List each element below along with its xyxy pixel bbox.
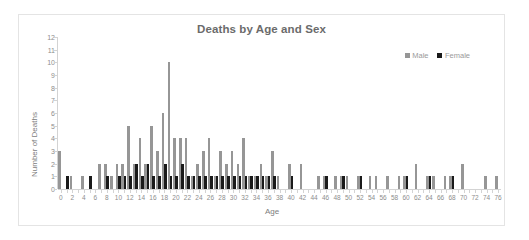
x-axis-tick-mark [372, 190, 373, 193]
x-axis-tick-label: 12 [126, 194, 133, 201]
x-axis-tick-label: 68 [448, 194, 455, 201]
bar-female-age-22[interactable] [187, 176, 190, 189]
bar-female-age-14[interactable] [141, 176, 144, 189]
bar-male-age-57[interactable] [386, 176, 389, 189]
bar-female-age-11[interactable] [124, 176, 127, 189]
bar-male-age-4[interactable] [81, 176, 84, 189]
bar-male-age-9[interactable] [110, 176, 113, 189]
bar-male-age-55[interactable] [375, 176, 378, 189]
bar-female-age-37[interactable] [273, 176, 276, 189]
x-axis-tick-label: 20 [172, 194, 179, 201]
x-axis-tick-mark [492, 190, 493, 193]
x-axis-tick-mark [95, 190, 96, 193]
bar-female-age-28[interactable] [221, 176, 224, 189]
plot-area [58, 37, 501, 189]
bar-male-age-50[interactable] [346, 176, 349, 189]
bar-female-age-16[interactable] [152, 176, 155, 189]
bar-female-age-46[interactable] [325, 176, 328, 189]
x-axis-tick-label: 24 [195, 194, 202, 201]
y-axis-tick-mark [54, 113, 57, 114]
bar-female-age-26[interactable] [210, 176, 213, 189]
x-axis-tick-mark [153, 190, 154, 193]
x-axis-tick-label: 26 [207, 194, 214, 201]
bar-male-age-45[interactable] [317, 176, 320, 189]
bar-female-age-12[interactable] [129, 176, 132, 189]
bar-male-age-74[interactable] [484, 176, 487, 189]
bar-male-age-2[interactable] [70, 176, 73, 189]
x-axis-tick-mark [210, 190, 211, 193]
bar-female-age-30[interactable] [233, 176, 236, 189]
x-axis-tick-mark [170, 190, 171, 193]
bar-female-age-68[interactable] [452, 176, 455, 189]
y-axis-tick-mark [54, 176, 57, 177]
x-axis-tick-mark [72, 190, 73, 193]
x-axis-tick-mark [366, 190, 367, 193]
x-axis-tick-mark [245, 190, 246, 193]
bar-male-age-0[interactable] [58, 151, 61, 189]
bar-female-age-23[interactable] [193, 176, 196, 189]
x-axis-tick-mark [377, 190, 378, 193]
bar-female-age-15[interactable] [147, 164, 150, 189]
bar-female-age-49[interactable] [342, 176, 345, 189]
bar-male-age-59[interactable] [398, 176, 401, 189]
x-axis-tick-mark [354, 190, 355, 193]
bar-male-age-42[interactable] [300, 164, 303, 189]
x-axis-tick-mark [78, 190, 79, 193]
bar-female-age-60[interactable] [406, 176, 409, 189]
y-axis-tick-mark [54, 75, 57, 76]
bar-female-age-29[interactable] [227, 176, 230, 189]
bar-female-age-19[interactable] [170, 176, 173, 189]
y-axis-tick-mark [54, 100, 57, 101]
bar-male-age-70[interactable] [461, 164, 464, 189]
bar-female-age-13[interactable] [135, 164, 138, 189]
y-axis-tick-mark [54, 50, 57, 51]
bar-male-age-38[interactable] [277, 176, 280, 189]
bar-female-age-40[interactable] [291, 176, 294, 189]
x-axis-tick-mark [291, 190, 292, 193]
bar-male-age-65[interactable] [432, 176, 435, 189]
x-axis-tick-mark [337, 190, 338, 193]
bar-female-age-21[interactable] [181, 164, 184, 189]
bar-female-age-25[interactable] [204, 176, 207, 189]
bar-female-age-24[interactable] [198, 176, 201, 189]
bar-female-age-1[interactable] [66, 176, 69, 189]
bar-female-age-36[interactable] [268, 176, 271, 189]
x-axis-tick-mark [251, 190, 252, 193]
bar-male-age-7[interactable] [98, 164, 101, 189]
x-axis-tick-label: 34 [253, 194, 260, 201]
chart-container: Deaths by Age and Sex MaleFemale Number … [18, 14, 505, 226]
x-axis-tick-mark [61, 190, 62, 193]
bar-male-age-48[interactable] [334, 176, 337, 189]
x-axis-tick-mark [418, 190, 419, 193]
x-axis-tick-mark [331, 190, 332, 193]
x-axis-tick-mark [446, 190, 447, 193]
bar-female-age-20[interactable] [175, 176, 178, 189]
bar-female-age-32[interactable] [245, 176, 248, 189]
bar-female-age-35[interactable] [262, 176, 265, 189]
bar-male-age-54[interactable] [369, 176, 372, 189]
bar-male-age-76[interactable] [495, 176, 498, 189]
bar-female-age-10[interactable] [118, 176, 121, 189]
x-axis-tick-mark [349, 190, 350, 193]
x-axis-tick-label: 14 [138, 194, 145, 201]
bar-female-age-31[interactable] [239, 176, 242, 189]
x-axis-tick-mark [400, 190, 401, 193]
x-axis-tick-mark [268, 190, 269, 193]
bar-female-age-17[interactable] [158, 176, 161, 189]
x-axis-tick-label: 6 [94, 194, 98, 201]
bar-female-age-52[interactable] [360, 176, 363, 189]
x-axis-tick-label: 28 [218, 194, 225, 201]
x-axis-tick-labels: 0246810121416182022242628303234363840424… [58, 194, 501, 204]
x-axis-tick-label: 50 [345, 194, 352, 201]
bar-female-age-5[interactable] [89, 176, 92, 189]
bar-female-age-33[interactable] [250, 176, 253, 189]
bar-female-age-18[interactable] [164, 164, 167, 189]
bar-female-age-8[interactable] [106, 176, 109, 189]
bar-male-age-67[interactable] [444, 176, 447, 189]
bar-female-age-64[interactable] [429, 176, 432, 189]
bar-female-age-27[interactable] [216, 176, 219, 189]
bar-male-age-19[interactable] [168, 62, 171, 189]
y-axis-tick-mark [54, 126, 57, 127]
bar-female-age-34[interactable] [256, 176, 259, 189]
bar-male-age-62[interactable] [415, 164, 418, 189]
